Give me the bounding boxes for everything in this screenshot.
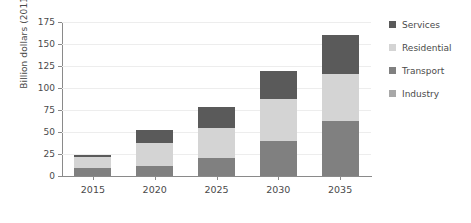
y-tick-label: 0 xyxy=(49,171,55,181)
y-tick-label: 150 xyxy=(38,39,55,49)
x-tick-mark xyxy=(93,176,94,180)
y-tick-label: 125 xyxy=(38,61,55,71)
y-tick-mark xyxy=(58,22,62,23)
stacked-bar xyxy=(136,22,173,176)
x-tick-mark xyxy=(278,176,279,180)
y-tick-label: 25 xyxy=(44,149,55,159)
legend-swatch-icon xyxy=(389,67,396,74)
y-axis-title: Billion dollars (2011) xyxy=(19,0,29,111)
stacked-bar xyxy=(198,22,235,176)
legend-swatch-icon xyxy=(389,44,396,51)
legend-item-transport[interactable]: Transport xyxy=(389,59,471,82)
bar-segment-services xyxy=(198,107,235,128)
x-tick-mark xyxy=(217,176,218,180)
legend: ServicesResidentialTransportIndustry xyxy=(389,13,471,105)
x-tick-label: 2030 xyxy=(266,184,290,195)
stacked-bar xyxy=(260,22,297,176)
legend-swatch-icon xyxy=(389,90,396,97)
bar-segment-transport xyxy=(198,158,235,176)
bar-segment-residential xyxy=(136,143,173,166)
x-tick-label: 2015 xyxy=(81,184,105,195)
legend-label: Services xyxy=(402,20,440,30)
y-tick-mark xyxy=(58,176,62,177)
plot-area: 0255075100125150175 20152020202520302035 xyxy=(62,22,371,176)
bar-segment-residential xyxy=(322,74,359,121)
y-tick-mark xyxy=(58,88,62,89)
x-tick-label: 2035 xyxy=(328,184,352,195)
y-tick-label: 175 xyxy=(38,17,55,27)
bar-segment-transport xyxy=(260,141,297,176)
bar-segment-services xyxy=(322,35,359,74)
bar-segment-services xyxy=(260,71,297,98)
x-tick-mark xyxy=(340,176,341,180)
y-tick-mark xyxy=(58,110,62,111)
y-tick-mark xyxy=(58,132,62,133)
x-tick-mark xyxy=(155,176,156,180)
legend-label: Industry xyxy=(402,89,439,99)
bar-segment-residential xyxy=(198,128,235,159)
bar-segment-transport xyxy=(136,166,173,176)
x-tick-label: 2025 xyxy=(204,184,228,195)
x-tick-label: 2020 xyxy=(143,184,167,195)
legend-item-services[interactable]: Services xyxy=(389,13,471,36)
y-tick-mark xyxy=(58,44,62,45)
legend-label: Transport xyxy=(402,66,444,76)
stacked-bar-chart: Billion dollars (2011) 02550751001251501… xyxy=(0,0,471,223)
y-tick-mark xyxy=(58,154,62,155)
legend-item-industry[interactable]: Industry xyxy=(389,82,471,105)
bar-segment-services xyxy=(74,155,111,157)
y-tick-label: 75 xyxy=(44,105,55,115)
bar-segment-residential xyxy=(74,157,111,168)
y-tick-label: 50 xyxy=(44,127,55,137)
bar-segment-transport xyxy=(74,168,111,176)
bar-segment-residential xyxy=(260,99,297,141)
legend-label: Residential xyxy=(402,43,452,53)
stacked-bar xyxy=(322,22,359,176)
legend-swatch-icon xyxy=(389,21,396,28)
bar-segment-services xyxy=(136,130,173,143)
y-tick-label: 100 xyxy=(38,83,55,93)
legend-item-residential[interactable]: Residential xyxy=(389,36,471,59)
stacked-bar xyxy=(74,22,111,176)
y-tick-mark xyxy=(58,66,62,67)
bar-segment-transport xyxy=(322,121,359,176)
